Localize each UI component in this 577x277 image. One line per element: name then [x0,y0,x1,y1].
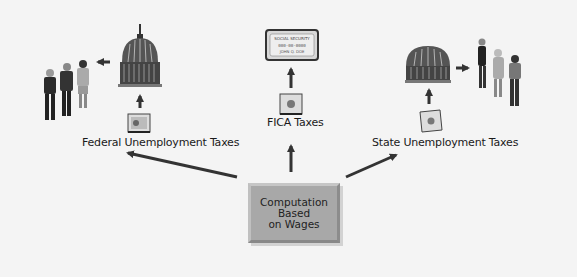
fica-money-bag-icon [280,94,302,114]
social-security-card-icon: SOCIAL SECURITY 000-00-0000 JOHN Q. DOE [266,30,318,60]
federal-unemployment-taxes-label: Federal Unemployment Taxes [82,136,239,149]
arrow-to-state [346,155,396,177]
computation-line-2: Based [278,208,310,219]
unemployed-people-left-icon [44,60,89,120]
svg-text:JOHN Q. DOE: JOHN Q. DOE [279,49,305,54]
unemployed-people-right-icon [478,39,521,107]
fica-taxes-label: FICA Taxes [267,116,324,129]
state-money-bag-icon [420,110,442,132]
state-capitol-dome-icon [405,46,451,83]
computation-line-1: Computation [260,197,328,208]
state-unemployment-taxes-label: State Unemployment Taxes [372,136,518,149]
federal-money-bag-icon [128,114,150,132]
computation-line-3: on Wages [268,219,319,230]
capitol-dome-icon [118,24,162,87]
svg-text:000-00-0000: 000-00-0000 [278,43,306,48]
arrow-to-federal [128,153,237,177]
computation-based-on-wages-box: Computation Based on Wages [248,183,340,243]
svg-text:SOCIAL SECURITY: SOCIAL SECURITY [274,36,310,41]
